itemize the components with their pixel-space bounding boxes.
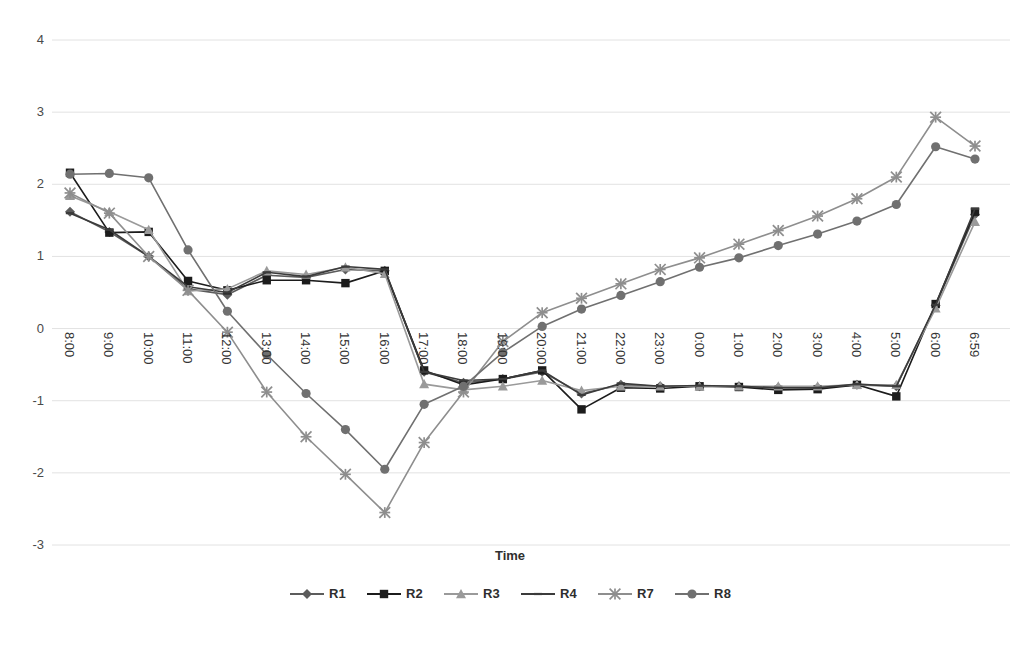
series-r8: [65, 142, 979, 474]
data-point-marker: [183, 285, 194, 296]
y-axis-tick-label: 4: [16, 33, 44, 46]
data-point-marker: [892, 200, 901, 209]
x-axis-tick-label: 11:00: [181, 332, 194, 364]
x-axis-tick-label: 9:00: [102, 332, 115, 357]
data-point-marker: [577, 405, 585, 413]
data-point-marker: [420, 400, 429, 409]
data-point-marker: [301, 431, 312, 442]
series-r7: [65, 112, 981, 518]
legend-item-r7[interactable]: R7: [597, 586, 654, 601]
data-point-marker: [615, 278, 626, 289]
legend-item-r2[interactable]: R2: [366, 586, 423, 601]
x-axis-tick-label: 8:00: [63, 332, 76, 357]
data-point-marker: [301, 389, 310, 398]
data-point-marker: [65, 170, 74, 179]
x-axis-tick-label: 19:00: [496, 332, 509, 365]
data-point-marker: [687, 589, 696, 598]
data-point-marker: [183, 245, 192, 254]
x-axis-tick-label: 3:00: [811, 332, 824, 357]
data-point-marker: [380, 465, 389, 474]
data-point-marker: [734, 239, 745, 250]
data-point-marker: [610, 588, 621, 599]
x-axis-tick-label: 17:00: [417, 332, 430, 365]
data-point-marker: [970, 154, 979, 163]
legend-label: R2: [406, 586, 423, 601]
legend-swatch-diamond-icon: [289, 587, 325, 601]
x-axis-tick-label: 6:59: [968, 332, 981, 357]
data-point-marker: [340, 469, 351, 480]
data-point-marker: [537, 307, 548, 318]
data-point-marker: [105, 169, 114, 178]
data-point-marker: [380, 589, 388, 597]
x-axis-tick-label: 4:00: [850, 332, 863, 357]
data-point-marker: [852, 193, 863, 204]
data-point-marker: [538, 322, 547, 331]
data-point-marker: [812, 211, 823, 222]
data-point-marker: [655, 264, 666, 275]
data-point-marker: [892, 392, 900, 400]
data-point-marker: [65, 188, 76, 199]
data-point-marker: [931, 142, 940, 151]
y-axis-tick-label: -1: [16, 394, 44, 407]
chart-legend: R1R2R3R4R7R8: [0, 586, 1020, 601]
x-axis-tick-label: 13:00: [260, 332, 273, 365]
data-point-marker: [341, 425, 350, 434]
x-axis-title: Time: [0, 548, 1020, 563]
data-point-marker: [379, 507, 390, 518]
legend-swatch-line-icon: [520, 587, 556, 601]
data-point-marker: [970, 141, 981, 152]
data-point-marker: [577, 304, 586, 313]
legend-swatch-circle-icon: [674, 587, 710, 601]
legend-item-r1[interactable]: R1: [289, 586, 346, 601]
data-point-marker: [773, 225, 784, 236]
data-point-marker: [459, 382, 468, 391]
x-axis-tick-label: 21:00: [575, 332, 588, 365]
series-r4: [66, 209, 979, 395]
x-axis-tick-label: 0:00: [693, 332, 706, 357]
gridlines: [52, 40, 1010, 545]
data-point-marker: [576, 293, 587, 304]
data-point-marker: [263, 276, 271, 284]
x-axis-tick-label: 22:00: [614, 332, 627, 365]
x-axis-tick-label: 1:00: [732, 332, 745, 357]
x-axis-tick-label: 18:00: [456, 332, 469, 365]
legend-item-r3[interactable]: R3: [443, 586, 500, 601]
series-line-r3: [70, 196, 975, 391]
y-axis-tick-label: 1: [16, 249, 44, 262]
data-point-marker: [694, 252, 705, 263]
data-point-marker: [223, 307, 232, 316]
x-axis-tick-label: 12:00: [220, 332, 233, 365]
legend-swatch-x-icon: [597, 587, 633, 601]
data-point-marker: [616, 291, 625, 300]
data-point-marker: [419, 379, 429, 388]
legend-item-r4[interactable]: R4: [520, 586, 577, 601]
data-point-marker: [419, 437, 430, 448]
legend-label: R8: [714, 586, 731, 601]
data-point-marker: [144, 173, 153, 182]
x-axis-tick-label: 2:00: [771, 332, 784, 357]
legend-label: R3: [483, 586, 500, 601]
data-point-marker: [302, 589, 312, 599]
x-axis-tick-label: 16:00: [378, 332, 391, 365]
x-axis-tick-label: 5:00: [889, 332, 902, 357]
series-r3: [65, 191, 980, 395]
x-axis-tick-label: 20:00: [535, 332, 548, 365]
legend-label: R4: [560, 586, 577, 601]
legend-label: R1: [329, 586, 346, 601]
series-r1: [65, 207, 980, 399]
data-point-marker: [341, 279, 349, 287]
data-point-marker: [104, 208, 115, 219]
legend-item-r8[interactable]: R8: [674, 586, 731, 601]
data-point-marker: [852, 216, 861, 225]
y-axis-tick-label: 2: [16, 177, 44, 190]
x-axis-tick-label: 23:00: [653, 332, 666, 365]
legend-swatch-square-icon: [366, 587, 402, 601]
series-line-r7: [70, 117, 975, 512]
legend-swatch-triangle-icon: [443, 587, 479, 601]
x-axis-tick-label: 14:00: [299, 332, 312, 365]
series-line-r4: [70, 209, 975, 395]
data-point-marker: [143, 251, 154, 262]
data-point-marker: [656, 277, 665, 286]
data-point-marker: [537, 376, 547, 385]
data-point-marker: [695, 263, 704, 272]
